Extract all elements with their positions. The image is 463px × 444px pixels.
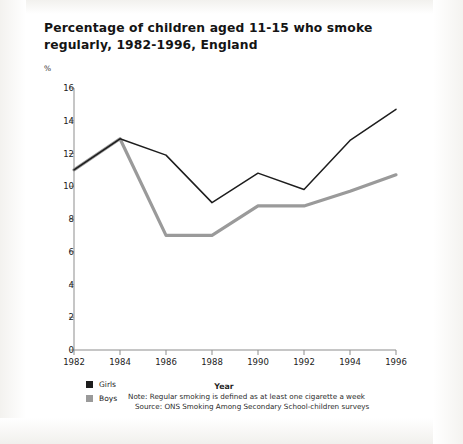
y-axis-unit-label: % bbox=[44, 64, 51, 73]
chart-footnotes: Note: Regular smoking is defined as at l… bbox=[128, 392, 369, 411]
chart-legend: Girls Boys bbox=[86, 378, 117, 406]
note-line: Note: Regular smoking is defined as at l… bbox=[128, 392, 369, 402]
plot-area: 0246810121416 19821984198619881990199219… bbox=[44, 80, 404, 365]
x-axis-tick-1994: 1994 bbox=[339, 357, 361, 367]
x-axis-tick-1990: 1990 bbox=[247, 357, 269, 367]
legend-item-girls: Girls bbox=[86, 378, 117, 390]
x-axis-tick-1984: 1984 bbox=[109, 357, 131, 367]
source-line: Source: ONS Smoking Among Secondary Scho… bbox=[128, 402, 369, 412]
legend-swatch-girls bbox=[86, 381, 93, 388]
x-axis-tick-1992: 1992 bbox=[293, 357, 315, 367]
legend-swatch-boys bbox=[86, 395, 93, 402]
x-axis-tick-1996: 1996 bbox=[385, 357, 407, 367]
x-axis-tick-1988: 1988 bbox=[201, 357, 223, 367]
legend-label-boys: Boys bbox=[99, 394, 117, 403]
legend-label-girls: Girls bbox=[99, 380, 116, 389]
chart-title: Percentage of children aged 11-15 who sm… bbox=[44, 20, 404, 54]
x-axis-tick-1982: 1982 bbox=[63, 357, 85, 367]
x-axis-tick-1986: 1986 bbox=[155, 357, 177, 367]
chart-figure: Percentage of children aged 11-15 who sm… bbox=[0, 0, 463, 444]
x-axis-tick-labels: 19821984198619881990199219941996 bbox=[44, 80, 404, 365]
legend-item-boys: Boys bbox=[86, 392, 117, 404]
